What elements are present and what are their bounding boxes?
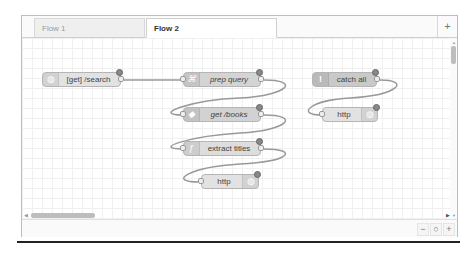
- node-get-search[interactable]: ◍ [get] /search: [42, 72, 121, 87]
- scroll-down-icon[interactable]: ▼: [452, 213, 456, 218]
- vertical-scrollbar[interactable]: ▲ ▼: [450, 38, 457, 219]
- workspace: Flow 1 Flow 2 + ▲ ▼ ◀ ▶ − ○ +: [21, 15, 458, 237]
- tab-flow-2[interactable]: Flow 2: [146, 18, 277, 38]
- horizontal-scroll-thumb[interactable]: [31, 213, 95, 218]
- node-get-books[interactable]: ◆ get /books: [183, 107, 261, 122]
- changed-indicator: [372, 69, 379, 76]
- changed-indicator: [256, 69, 263, 76]
- input-port[interactable]: [180, 111, 186, 117]
- changed-indicator: [116, 69, 123, 76]
- zoom-in-button[interactable]: +: [443, 223, 455, 236]
- tab-bar: Flow 1 Flow 2 +: [22, 16, 457, 38]
- output-port[interactable]: [258, 76, 264, 82]
- add-tab-button[interactable]: +: [437, 16, 457, 37]
- divider: [17, 241, 460, 243]
- globe-icon: ◍: [43, 73, 59, 86]
- tab-flow-1[interactable]: Flow 1: [34, 18, 145, 37]
- changed-indicator: [256, 138, 263, 145]
- input-port[interactable]: [180, 145, 186, 151]
- changed-indicator: [373, 104, 380, 111]
- output-port[interactable]: [258, 111, 264, 117]
- function-icon: ƒ: [184, 142, 200, 155]
- zoom-out-button[interactable]: −: [417, 223, 429, 236]
- node-prep-query[interactable]: ⌘ prep query: [183, 72, 261, 87]
- output-port[interactable]: [118, 76, 124, 82]
- plus-icon: +: [444, 20, 450, 32]
- vertical-scroll-thumb[interactable]: [451, 46, 456, 64]
- scroll-left-icon[interactable]: ◀: [24, 212, 28, 218]
- workspace-footer: − ○ +: [22, 219, 457, 237]
- output-port[interactable]: [258, 145, 264, 151]
- node-http-response-2[interactable]: http ◍: [322, 107, 378, 122]
- flow-canvas[interactable]: [22, 38, 450, 219]
- zoom-controls: − ○ +: [417, 223, 455, 236]
- template-icon: ⌘: [184, 73, 200, 86]
- changed-indicator: [254, 171, 261, 178]
- input-port[interactable]: [198, 178, 204, 184]
- node-catch-all[interactable]: ! catch all: [312, 72, 377, 87]
- exclamation-icon: !: [313, 73, 329, 86]
- scroll-right-icon[interactable]: ▶: [446, 212, 450, 218]
- output-port[interactable]: [374, 76, 380, 82]
- node-extract-titles[interactable]: ƒ extract titles: [183, 141, 261, 156]
- scroll-up-icon[interactable]: ▲: [452, 40, 456, 45]
- input-port[interactable]: [180, 76, 186, 82]
- zoom-reset-button[interactable]: ○: [430, 223, 442, 236]
- database-icon: ◆: [184, 108, 200, 121]
- input-port[interactable]: [319, 111, 325, 117]
- node-http-response-1[interactable]: http ◍: [201, 174, 259, 189]
- changed-indicator: [256, 104, 263, 111]
